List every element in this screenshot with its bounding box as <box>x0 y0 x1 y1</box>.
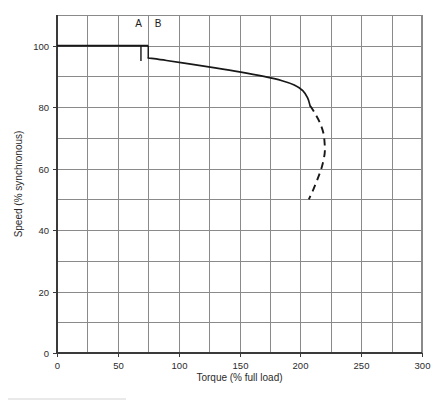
y-tick-label-80: 80 <box>38 102 49 113</box>
x-tick-label-50: 50 <box>113 360 124 371</box>
caption-remnant <box>8 398 126 400</box>
x-tick-label-250: 250 <box>354 360 370 371</box>
y-tick-label-100: 100 <box>33 41 49 52</box>
x-tick-label-150: 150 <box>233 360 249 371</box>
y-tick-label-0: 0 <box>44 348 49 359</box>
figure-container: 050100150200250300 020406080100 Torque (… <box>0 0 446 406</box>
chart-background <box>0 0 446 406</box>
speed-torque-chart: 050100150200250300 020406080100 Torque (… <box>0 0 446 406</box>
x-axis-title: Torque (% full load) <box>196 372 282 383</box>
annotation-label-b: B <box>155 18 162 29</box>
y-axis-title: Speed (% synchronous) <box>13 131 24 238</box>
annotation-label-a: A <box>135 18 142 29</box>
y-tick-label-60: 60 <box>38 164 49 175</box>
x-tick-label-0: 0 <box>55 360 60 371</box>
y-tick-label-40: 40 <box>38 225 49 236</box>
x-tick-label-300: 300 <box>415 360 431 371</box>
x-tick-label-100: 100 <box>172 360 188 371</box>
y-tick-label-20: 20 <box>38 287 49 298</box>
x-tick-label-200: 200 <box>293 360 309 371</box>
